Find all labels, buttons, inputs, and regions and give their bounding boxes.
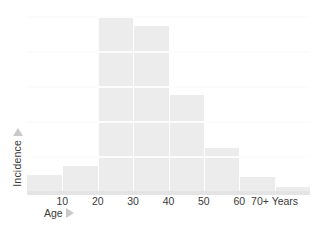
triangle-up-icon bbox=[13, 128, 23, 136]
x-axis-title: Age bbox=[44, 207, 63, 219]
x-axis-tick-label: 60 bbox=[233, 195, 245, 207]
x-axis-tick-label: 50 bbox=[198, 195, 210, 207]
x-axis-tick-label: 70+ Years bbox=[251, 195, 298, 207]
x-axis-title-group: Age bbox=[44, 207, 74, 219]
x-axis-tick-label: 30 bbox=[127, 195, 139, 207]
bar-series bbox=[27, 10, 310, 191]
bar bbox=[133, 26, 168, 191]
bar bbox=[204, 148, 239, 191]
incidence-by-age-histogram: 10203040506070+ Years Age Incidence bbox=[0, 0, 332, 235]
bar bbox=[169, 95, 204, 191]
x-axis-tick-label: 40 bbox=[163, 195, 175, 207]
x-axis-tick-label: 10 bbox=[57, 195, 69, 207]
x-axis-tick-label: 20 bbox=[92, 195, 104, 207]
y-axis-title: Incidence bbox=[11, 140, 23, 187]
bar bbox=[98, 17, 133, 191]
bar bbox=[27, 175, 62, 191]
plot-area bbox=[27, 10, 310, 191]
bar bbox=[62, 166, 97, 191]
bar bbox=[239, 177, 274, 191]
triangle-right-icon bbox=[66, 208, 74, 218]
